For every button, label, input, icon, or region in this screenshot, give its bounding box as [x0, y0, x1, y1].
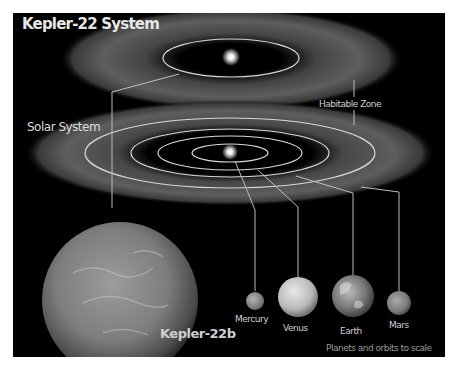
mercury-label: Mercury: [235, 314, 268, 324]
solar-system-title: Solar System: [27, 120, 100, 134]
kepler-system-title: Kepler-22 System: [22, 15, 159, 33]
mars-label: Mars: [389, 320, 409, 330]
mars-planet: [387, 291, 411, 315]
venus-planet: [278, 277, 318, 317]
earth-planet: [332, 275, 374, 317]
venus-label: Venus: [283, 323, 308, 333]
scale-note: Planets and orbits to scale: [326, 343, 432, 353]
kepler-22-star: [222, 48, 240, 66]
kepler-22b-label: Kepler-22b: [160, 326, 235, 341]
earth-label: Earth: [340, 326, 362, 336]
diagram-graphics: [13, 13, 445, 357]
diagram-panel: Kepler-22 System Solar System Habitable …: [13, 13, 445, 357]
sun: [222, 144, 238, 160]
mars-leader: [361, 187, 399, 291]
habitable-zone-label: Habitable Zone: [319, 99, 381, 109]
mercury-planet: [246, 292, 264, 310]
